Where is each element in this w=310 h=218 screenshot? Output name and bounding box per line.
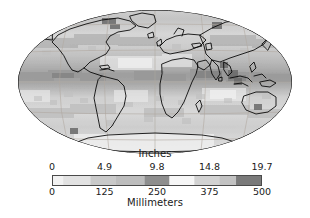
map-panel bbox=[14, 4, 296, 154]
colorbar-band-2 bbox=[90, 176, 115, 185]
colorbar-top-tick-1: 4.9 bbox=[97, 161, 112, 173]
map-data-layer bbox=[14, 4, 296, 154]
colorbar-band-8 bbox=[236, 176, 261, 185]
colorbar-band-6 bbox=[194, 176, 219, 185]
colorbar-band-1 bbox=[63, 176, 90, 185]
colorbar-band-3 bbox=[115, 176, 144, 185]
colorbar-top-tick-3: 14.8 bbox=[199, 161, 220, 173]
colorbar-bands bbox=[53, 176, 261, 185]
colorbar-band-5 bbox=[169, 176, 194, 185]
world-map bbox=[14, 4, 296, 154]
colorbar-band-4 bbox=[145, 176, 170, 185]
colorbar-top-tick-2: 9.8 bbox=[149, 161, 164, 173]
colorbar-panel: Inches 0 4.9 9.8 14.8 19.7 0 125 250 375… bbox=[0, 148, 310, 218]
colorbar-gradient-bar bbox=[52, 175, 262, 186]
colorbar-top-label: Inches bbox=[0, 148, 310, 159]
colorbar-top-tick-0: 0 bbox=[49, 161, 55, 173]
colorbar-band-0 bbox=[53, 176, 63, 185]
colorbar-top-ticks: 0 4.9 9.8 14.8 19.7 bbox=[52, 161, 262, 173]
colorbar-top-tick-4: 19.7 bbox=[251, 161, 272, 173]
colorbar-band-7 bbox=[219, 176, 236, 185]
colorbar-bottom-label: Millimeters bbox=[0, 197, 310, 208]
figure-root: Inches 0 4.9 9.8 14.8 19.7 0 125 250 375… bbox=[0, 0, 310, 218]
